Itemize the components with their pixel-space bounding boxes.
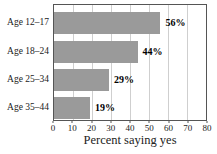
gridline bbox=[187, 5, 188, 120]
bar-chart-figure: 56%44%29%19% Age 12–17Age 18–24Age 25–34… bbox=[0, 0, 217, 154]
bar bbox=[54, 12, 160, 34]
bar-value-label: 56% bbox=[165, 12, 185, 34]
x-tick-label: 70 bbox=[183, 123, 192, 133]
bar-value-label: 44% bbox=[143, 41, 163, 63]
x-tick-label: 60 bbox=[164, 123, 173, 133]
x-axis-title: Percent saying yes bbox=[53, 133, 207, 148]
bar bbox=[54, 69, 109, 91]
x-tick-label: 40 bbox=[126, 123, 135, 133]
bar bbox=[54, 41, 138, 63]
x-tick-label: 10 bbox=[68, 123, 77, 133]
x-tick-label: 30 bbox=[106, 123, 115, 133]
plot-area: 56%44%29%19% bbox=[53, 4, 207, 121]
x-tick-label: 50 bbox=[145, 123, 154, 133]
x-tick-label: 80 bbox=[203, 123, 212, 133]
category-label: Age 12–17 bbox=[0, 11, 49, 33]
category-label: Age 18–24 bbox=[0, 40, 49, 62]
category-label: Age 25–34 bbox=[0, 68, 49, 90]
x-tick-label: 0 bbox=[51, 123, 56, 133]
category-labels: Age 12–17Age 18–24Age 25–34Age 35–44 bbox=[0, 0, 49, 125]
bar-value-label: 19% bbox=[95, 97, 115, 119]
category-label: Age 35–44 bbox=[0, 96, 49, 118]
bar bbox=[54, 97, 90, 119]
bar-value-label: 29% bbox=[114, 69, 134, 91]
x-tick-label: 20 bbox=[87, 123, 96, 133]
